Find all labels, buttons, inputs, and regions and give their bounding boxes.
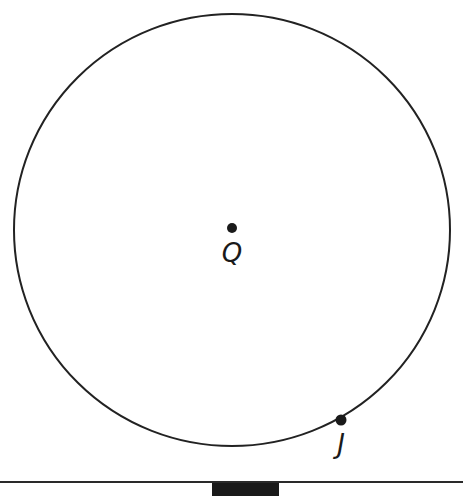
label-j: J xyxy=(337,431,345,457)
black-block xyxy=(212,483,279,496)
label-q: Q xyxy=(222,240,242,266)
center-point-q xyxy=(227,223,237,233)
point-j xyxy=(336,415,347,426)
